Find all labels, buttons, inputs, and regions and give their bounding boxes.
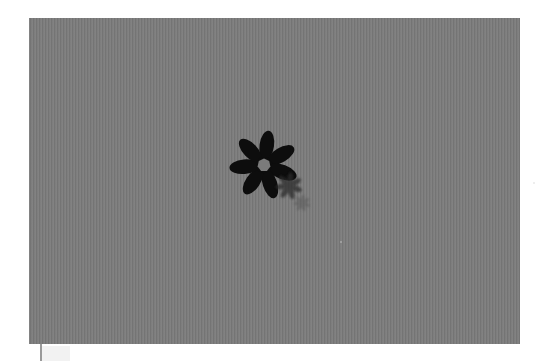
cursor-box: [42, 346, 70, 361]
speck: [340, 241, 342, 243]
image-canvas: [29, 18, 520, 344]
speck: [533, 182, 535, 184]
